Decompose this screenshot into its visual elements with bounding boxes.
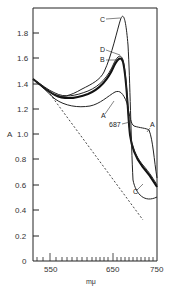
- y-tick-labels: 1.8 1.6 1.4 1.2 1.0 0.8 0.6 0.4 0.2 0: [15, 29, 29, 266]
- peak-687-label: 687: [109, 121, 121, 128]
- y-tick-label: 1.2: [17, 105, 29, 114]
- y-tick-label: 0.2: [15, 232, 27, 241]
- curve-c-label-bottom: C: [133, 188, 138, 195]
- x-tick-label: 750: [150, 265, 164, 274]
- curve-c: [33, 16, 157, 199]
- x-tick-label: 550: [44, 265, 58, 274]
- x-axis-label: mμ: [86, 278, 96, 286]
- curve-a-label-right: A: [150, 121, 155, 128]
- y-tick-label: 1.4: [17, 80, 29, 89]
- curve-b-label: B: [100, 56, 105, 63]
- y-tick-label: 0.6: [15, 181, 27, 190]
- curve-a-label-left: A: [101, 112, 106, 119]
- curve-d-label: D: [100, 46, 105, 53]
- y-tick-label: 0.4: [15, 206, 27, 215]
- y-axis-label: A: [7, 130, 13, 139]
- y-tick-label: 1.6: [17, 54, 29, 63]
- curve-b: [33, 59, 157, 187]
- y-ticks: [33, 33, 39, 236]
- y-tick-label: 0: [22, 257, 27, 266]
- absorption-spectrum-chart: 1.8 1.6 1.4 1.2 1.0 0.8 0.6 0.4 0.2 0 A: [0, 0, 170, 291]
- y-tick-label: 1.8: [17, 29, 29, 38]
- y-tick-label: 0.8: [15, 155, 27, 164]
- curve-c-leader: [106, 18, 120, 19]
- x-tick-label: 650: [106, 265, 120, 274]
- x-tick-labels: 550 650 750: [44, 265, 164, 274]
- x-ticks: [37, 253, 153, 261]
- curve-d: [33, 56, 157, 185]
- curve-d-leader: [106, 50, 120, 55]
- curve-c-leader-bottom: [137, 184, 143, 190]
- curve-a-leader-left: [105, 101, 114, 114]
- y-tick-label: 1.0: [17, 130, 29, 139]
- curve-c-label: C: [100, 16, 105, 23]
